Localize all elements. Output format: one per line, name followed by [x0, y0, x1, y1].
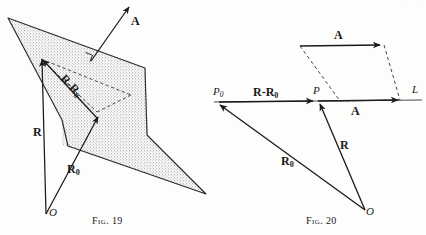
- page-corner-artifact: · ·: [406, 1, 422, 10]
- fig20-caption-number: 20: [326, 215, 337, 226]
- fig20-r0-subscript: 0: [290, 160, 294, 169]
- fig20-p0-subscript: 0: [220, 90, 224, 99]
- fig19-vector-a-label: A: [131, 15, 140, 27]
- fig20-r-minus-r0-base: R-R: [253, 85, 274, 99]
- fig20-vector-r-minus-r0-label: R-R0: [253, 86, 278, 100]
- fig20-vector-r0-label: R0: [281, 155, 294, 169]
- fig19-caption: Fig. 19: [92, 215, 123, 226]
- fig19-vector-a: [91, 7, 129, 61]
- fig-20-artwork: [214, 45, 422, 210]
- fig19-caption-prefix: Fig.: [92, 215, 109, 226]
- fig20-dashed-right-side: [384, 45, 400, 100]
- fig20-caption-prefix: Fig.: [306, 215, 323, 226]
- figures-artwork: [0, 0, 426, 235]
- fig20-vector-r-label: R: [340, 139, 349, 151]
- fig20-vector-a-top-label: A: [334, 29, 343, 41]
- fig20-vector-r-minus-r0: [219, 101, 313, 102]
- fig19-plane-outline: [8, 18, 206, 194]
- fig20-point-p0-label: P0: [213, 86, 223, 98]
- fig20-r0-base: R: [281, 154, 290, 168]
- fig20-line-l-label: L: [412, 84, 418, 95]
- figure-page: A R R0 R-R0 O Fig. 19 P0 P L R-R0 A A R …: [0, 0, 426, 235]
- fig19-vector-r-label: R: [33, 126, 42, 138]
- fig20-caption: Fig. 20: [306, 215, 337, 226]
- fig19-vector-r0-base: R: [67, 162, 76, 176]
- fig19-caption-number: 19: [112, 215, 123, 226]
- fig20-vector-a-line-label: A: [351, 105, 360, 117]
- fig20-r-minus-r0-subscript: 0: [274, 91, 278, 100]
- fig20-p0-base: P: [213, 85, 220, 97]
- fig19-vector-r0-subscript: 0: [76, 168, 80, 177]
- fig20-vector-a-free: [300, 45, 380, 46]
- fig19-origin-label: O: [49, 207, 57, 218]
- fig19-vector-r0-label: R0: [67, 163, 80, 177]
- fig20-origin-label: O: [366, 206, 374, 217]
- fig-19-artwork: [8, 7, 206, 214]
- fig20-dashed-left-side: [300, 46, 340, 101]
- fig20-point-p-label: P: [313, 85, 320, 96]
